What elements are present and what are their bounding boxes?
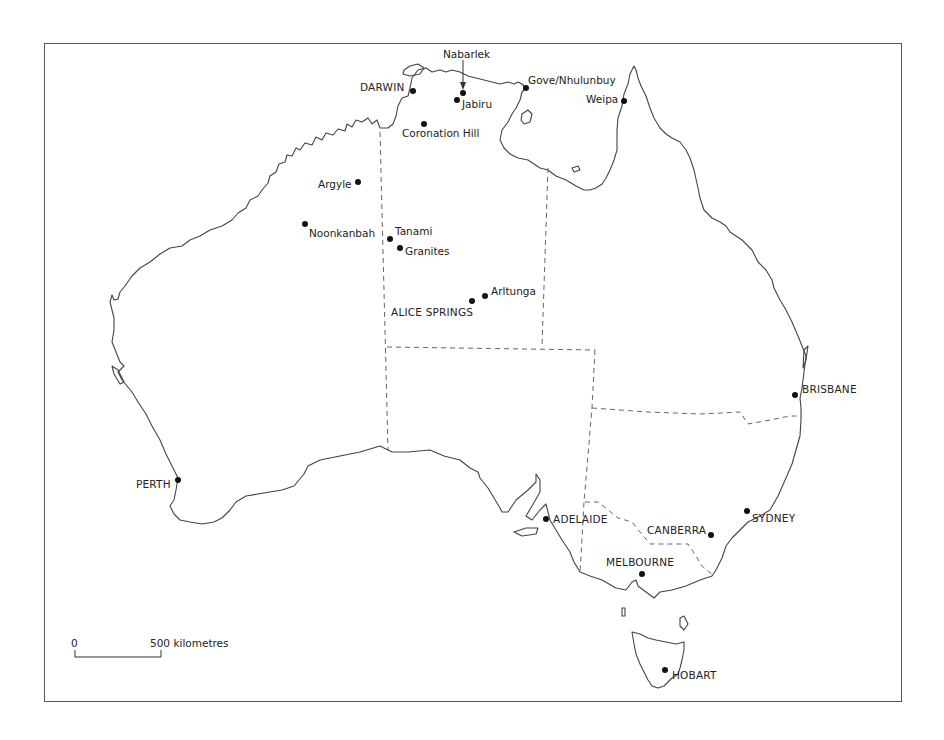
site-weipa: Weipa <box>586 93 627 105</box>
site-gove: Gove/Nhulunbuy <box>523 74 616 91</box>
border-wa-nt <box>380 132 388 450</box>
site-arltunga: Arltunga <box>482 285 536 299</box>
site-label: Noonkanbah <box>309 227 375 239</box>
site-noonkanbah: Noonkanbah <box>302 221 375 239</box>
scale-end-label: 500 kilometres <box>150 637 229 649</box>
city-marker-icon <box>744 508 750 514</box>
scale-bar: 0 500 kilometres <box>71 637 229 657</box>
kangaroo-island <box>514 528 538 536</box>
city-darwin: DARWIN <box>360 81 416 94</box>
site-argyle: Argyle <box>318 178 361 190</box>
site-label: Argyle <box>318 178 352 190</box>
site-marker-icon <box>454 97 460 103</box>
city-adelaide: ADELAIDE <box>543 513 608 525</box>
city-label: ADELAIDE <box>553 513 608 525</box>
groote-island <box>521 110 532 124</box>
city-marker-icon <box>543 516 549 522</box>
site-label: Coronation Hill <box>402 127 479 139</box>
city-label: CANBERRA <box>647 524 707 536</box>
site-marker-icon <box>397 245 403 251</box>
city-alice-springs: ALICE SPRINGS <box>391 298 475 318</box>
city-label: HOBART <box>672 669 717 681</box>
site-marker-icon <box>621 98 627 104</box>
border-qld-nsw <box>592 408 802 424</box>
site-marker-icon <box>355 179 361 185</box>
city-marker-icon <box>469 298 475 304</box>
scale-bar-line <box>75 650 161 657</box>
city-marker-icon <box>410 88 416 94</box>
site-label: Nabarlek <box>443 48 491 60</box>
city-label: ALICE SPRINGS <box>391 306 473 318</box>
border-sa-qld-nsw <box>580 350 595 574</box>
site-marker-icon <box>387 236 393 242</box>
site-tanami: Tanami <box>387 225 432 242</box>
city-marker-icon <box>639 571 645 577</box>
site-granites: Granites <box>397 245 450 257</box>
site-jabiru: Jabiru <box>454 97 492 110</box>
border-nt-qld <box>542 168 548 346</box>
city-marker-icon <box>708 532 714 538</box>
site-label: Granites <box>405 245 450 257</box>
border-nt-sa <box>387 347 595 350</box>
site-marker-icon <box>302 221 308 227</box>
site-marker-icon <box>482 293 488 299</box>
city-label: BRISBANE <box>802 383 857 395</box>
city-marker-icon <box>175 477 181 483</box>
australia-map: 0 500 kilometres DARWIN PERTH ADELAIDE M… <box>0 0 944 740</box>
city-hobart: HOBART <box>662 667 717 681</box>
city-canberra: CANBERRA <box>647 524 714 538</box>
city-label: PERTH <box>136 478 171 490</box>
site-marker-icon <box>460 90 466 96</box>
city-melbourne: MELBOURNE <box>606 556 674 577</box>
shark-bay-peninsula <box>112 366 124 384</box>
city-label: DARWIN <box>360 81 405 93</box>
city-perth: PERTH <box>136 477 181 490</box>
flinders-island <box>680 616 688 630</box>
site-coronation-hill: Coronation Hill <box>402 121 479 139</box>
city-brisbane: BRISBANE <box>792 383 857 398</box>
site-label: Tanami <box>394 225 432 237</box>
city-label: SYDNEY <box>752 512 796 524</box>
city-label: MELBOURNE <box>606 556 674 568</box>
gulf-island <box>572 166 580 172</box>
site-nabarlek: Nabarlek <box>443 48 491 96</box>
city-marker-icon <box>792 392 798 398</box>
melville-island <box>403 64 424 76</box>
city-marker-icon <box>662 667 668 673</box>
site-label: Jabiru <box>461 98 492 110</box>
site-label: Gove/Nhulunbuy <box>528 74 616 86</box>
king-island <box>622 608 625 616</box>
scale-start-label: 0 <box>71 637 78 649</box>
site-label: Weipa <box>586 93 618 105</box>
mainland-coastline <box>110 66 806 598</box>
site-label: Arltunga <box>491 285 536 297</box>
